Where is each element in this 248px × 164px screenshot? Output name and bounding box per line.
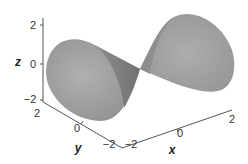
double-cone-surface-plot: 2 0 −2 z 2 0 −2 y −2 0 2 x bbox=[0, 0, 248, 164]
cone-left-nappe bbox=[46, 39, 140, 121]
x-tick-2: 2 bbox=[229, 113, 235, 125]
x-axis-label: x bbox=[168, 143, 177, 157]
z-tick-0: 0 bbox=[30, 58, 36, 70]
x-axis: −2 0 2 x bbox=[122, 110, 235, 157]
y-axis-label: y bbox=[74, 141, 83, 155]
z-tick-2: 2 bbox=[30, 19, 36, 31]
z-tick-neg2: −2 bbox=[24, 93, 37, 105]
z-axis-label: z bbox=[14, 55, 21, 69]
x-tick-0: 0 bbox=[177, 127, 183, 139]
x-tick-neg2: −2 bbox=[125, 138, 138, 150]
y-tick-0: 0 bbox=[74, 122, 80, 134]
cone-right-nappe bbox=[140, 14, 234, 92]
z-axis: 2 0 −2 z bbox=[14, 18, 43, 105]
y-tick-2: 2 bbox=[34, 107, 40, 119]
y-tick-neg2: −2 bbox=[103, 138, 116, 150]
